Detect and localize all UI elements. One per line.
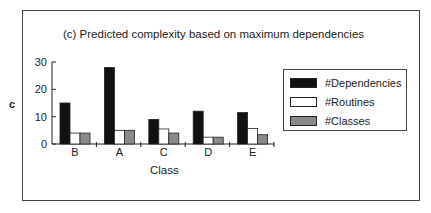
svg-text:A: A [116, 146, 124, 158]
legend-label: #Dependencies [325, 77, 401, 89]
legend-item-dependencies: #Dependencies [290, 76, 401, 90]
svg-text:C: C [160, 146, 168, 158]
svg-text:B: B [71, 146, 78, 158]
legend-item-routines: #Routines [290, 95, 375, 109]
svg-text:10: 10 [35, 111, 47, 123]
svg-text:D: D [204, 146, 212, 158]
legend: #Dependencies #Routines #Classes [283, 69, 407, 131]
svg-text:20: 20 [35, 83, 47, 95]
legend-item-classes: #Classes [290, 114, 370, 128]
svg-text:30: 30 [35, 56, 47, 68]
svg-text:0: 0 [41, 138, 47, 150]
legend-swatch [290, 97, 317, 107]
legend-swatch [290, 78, 317, 88]
legend-swatch [290, 116, 317, 126]
legend-label: #Routines [325, 96, 375, 108]
svg-text:E: E [249, 146, 256, 158]
legend-label: #Classes [325, 115, 370, 127]
